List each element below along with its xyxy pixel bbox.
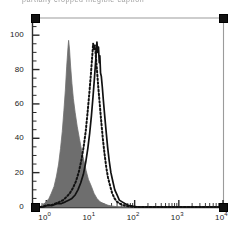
x-tick-label: 102 bbox=[127, 213, 140, 222]
y-tick-label: 0 bbox=[2, 202, 24, 211]
y-tick-label: 60 bbox=[2, 99, 24, 108]
x-tick-label: 104 bbox=[215, 213, 228, 222]
y-tick-marks bbox=[33, 18, 40, 207]
series-filled-gray bbox=[37, 40, 224, 207]
top-right-gate-handle[interactable] bbox=[219, 14, 228, 23]
y-tick-label: 40 bbox=[2, 133, 24, 142]
bottom-right-gate-handle[interactable] bbox=[219, 203, 228, 212]
x-tick-label: 101 bbox=[82, 213, 95, 222]
flow-cytometry-histogram-figure: partially cropped illegible caption 0204… bbox=[0, 0, 239, 241]
x-tick-label: 103 bbox=[171, 213, 184, 222]
x-tick-label: 100 bbox=[38, 213, 51, 222]
y-tick-label: 80 bbox=[2, 65, 24, 74]
top-left-gate-handle[interactable] bbox=[31, 14, 40, 23]
y-tick-label: 20 bbox=[2, 168, 24, 177]
histogram-series-layer bbox=[37, 40, 224, 207]
y-tick-label: 100 bbox=[2, 30, 24, 39]
bottom-left-gate-handle[interactable] bbox=[31, 203, 40, 212]
